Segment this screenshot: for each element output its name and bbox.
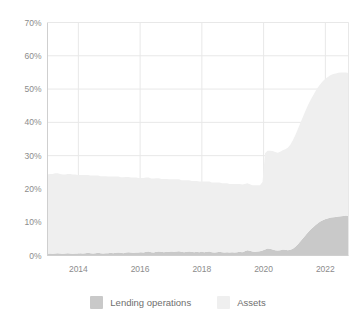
y-axis-tick-labels: 0%10%20%30%40%50%60%70% <box>24 18 41 261</box>
legend-swatch-assets <box>217 296 230 309</box>
svg-text:2020: 2020 <box>254 264 273 274</box>
svg-text:2016: 2016 <box>131 264 150 274</box>
svg-text:60%: 60% <box>24 51 41 61</box>
svg-text:2018: 2018 <box>192 264 211 274</box>
svg-text:30%: 30% <box>24 151 41 161</box>
legend-label-lending-operations: Lending operations <box>110 296 191 309</box>
svg-text:50%: 50% <box>24 84 41 94</box>
svg-text:2014: 2014 <box>69 264 88 274</box>
legend-item-lending-operations[interactable]: Lending operations <box>90 296 191 309</box>
legend-swatch-lending-operations <box>90 296 103 309</box>
svg-text:20%: 20% <box>24 184 41 194</box>
svg-text:40%: 40% <box>24 117 41 127</box>
series-areas <box>48 72 349 255</box>
svg-text:0%: 0% <box>29 251 42 261</box>
svg-text:2022: 2022 <box>316 264 335 274</box>
legend-item-assets[interactable]: Assets <box>217 296 266 309</box>
chart-legend: Lending operations Assets <box>0 296 356 309</box>
area-chart: 0%10%20%30%40%50%60%70% 2014201620182020… <box>0 0 356 330</box>
chart-plot-area: 0%10%20%30%40%50%60%70% 2014201620182020… <box>0 0 356 330</box>
legend-label-assets: Assets <box>237 296 266 309</box>
svg-text:10%: 10% <box>24 217 41 227</box>
svg-text:70%: 70% <box>24 18 41 28</box>
x-axis-tick-labels: 20142016201820202022 <box>69 264 335 274</box>
